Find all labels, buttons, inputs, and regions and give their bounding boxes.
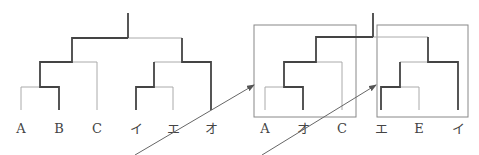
leaf-label: エ xyxy=(167,121,180,136)
left-subtree-box xyxy=(254,25,356,117)
cladogram-diagram: A B C イ エ オ A オ C エ E イ xyxy=(0,0,479,155)
leaf-label: エ xyxy=(375,121,388,136)
branch-root-left xyxy=(40,38,128,110)
leaf-label: C xyxy=(92,121,102,136)
branch-i-path xyxy=(136,62,154,110)
leaf-label: A xyxy=(259,121,270,136)
right-subtree-box xyxy=(377,25,468,117)
branch-right-clade xyxy=(182,38,211,110)
rearranged-tree: A オ C エ E イ xyxy=(254,13,468,136)
arrow-to-left-box xyxy=(135,85,254,155)
leaf-label: イ xyxy=(130,121,143,136)
branch-right-clade xyxy=(428,37,458,110)
leaf-label: イ xyxy=(452,121,465,136)
leaf-label: C xyxy=(337,121,347,136)
leaf-label: B xyxy=(54,121,64,136)
leaf-label: A xyxy=(15,121,26,136)
leaf-label: E xyxy=(414,121,424,136)
arrow-to-right-box xyxy=(262,85,376,155)
branch-e-path xyxy=(381,62,400,110)
leaf-label: オ xyxy=(297,121,310,136)
branch-root-left xyxy=(284,37,373,110)
original-tree: A B C イ エ オ xyxy=(15,13,217,136)
leaf-label: オ xyxy=(205,121,218,136)
